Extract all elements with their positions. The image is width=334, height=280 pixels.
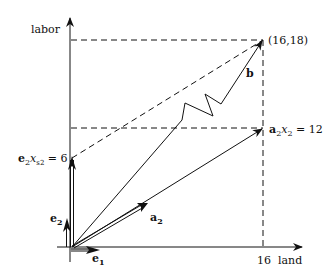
a2x2-a: a [269,123,276,136]
a2-letter: a [150,211,157,224]
e1-subscript: 1 [99,257,105,267]
dashed-line-es2-to-target [72,40,263,158]
target-point-label: (16,18) [268,34,308,47]
e2xs2-e: e [18,152,25,165]
a2-subscript: 2 [157,216,163,226]
es2-vector [68,156,76,247]
e2-subscript: 2 [57,217,63,227]
a2x2-vector [72,129,262,247]
vector-a2-label: a2 [150,211,163,226]
a2-vector [72,203,148,248]
e1-letter: e [92,252,99,265]
x-tick-16: 16 [257,254,271,267]
vector-b-label: b [246,67,254,80]
x-axis-label: land [278,254,302,267]
vector-e1-label: e1 [92,252,105,267]
a2x2-value: = 12 [293,123,323,136]
zigzag-path-b [72,41,262,247]
y-axis-label: labor [31,23,61,36]
a2x2-annotation: a2x2 = 12 [269,123,323,138]
e2xs2-annotation: e2xs2 = 6 [18,152,68,167]
e2xs2-value: = 6 [44,152,67,165]
vector-e2-label: e2 [50,212,63,227]
e2-letter: e [50,212,57,225]
vector-diagram: labor land 16 (16,18) b a2 e1 e2 a2x2 = … [0,0,334,280]
e2xs2-xsub: s2 [36,159,44,167]
